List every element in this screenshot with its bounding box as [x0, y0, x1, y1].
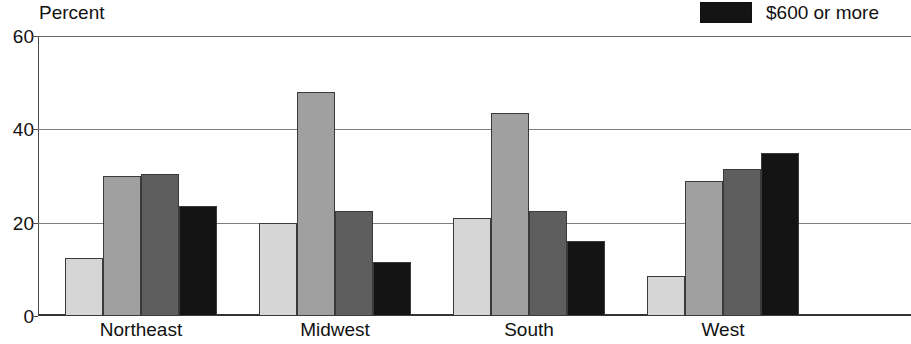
- y-axis-title: Percent: [39, 2, 104, 24]
- bar-midwest-series-4: [373, 262, 411, 316]
- bar-west-series-4: [761, 153, 799, 316]
- x-axis-category-labels: NortheastMidwestSouthWest: [38, 320, 911, 344]
- bar-midwest-series-3: [335, 211, 373, 316]
- y-tick-0: [32, 316, 38, 317]
- y-tick-label-60: 60: [0, 27, 34, 46]
- bar-west-series-3: [723, 169, 761, 316]
- y-tick-label-0: 0: [0, 307, 34, 326]
- bar-south-series-2: [491, 113, 529, 316]
- category-label-south: South: [504, 320, 554, 340]
- bar-northeast-series-3: [141, 174, 179, 316]
- chart-legend: $600 or more: [700, 0, 879, 24]
- bars-layer: [38, 36, 911, 316]
- bar-south-series-4: [567, 241, 605, 316]
- bar-midwest-series-2: [297, 92, 335, 316]
- category-label-northeast: Northeast: [100, 320, 182, 340]
- bar-south-series-1: [453, 218, 491, 316]
- bar-northeast-series-2: [103, 176, 141, 316]
- bar-chart: $600 or more Percent 0204060 NortheastMi…: [0, 0, 911, 344]
- category-label-west: West: [702, 320, 745, 340]
- bar-midwest-series-1: [259, 223, 297, 316]
- bar-south-series-3: [529, 211, 567, 316]
- legend-swatch-600-or-more: [700, 2, 752, 23]
- bar-northeast-series-1: [65, 258, 103, 316]
- bar-northeast-series-4: [179, 206, 217, 316]
- y-tick-label-40: 40: [0, 120, 34, 139]
- y-axis-tick-labels: 0204060: [0, 36, 34, 316]
- category-label-midwest: Midwest: [300, 320, 370, 340]
- bar-west-series-2: [685, 181, 723, 316]
- bar-west-series-1: [647, 276, 685, 316]
- legend-label-600-or-more: $600 or more: [766, 2, 879, 23]
- y-tick-label-20: 20: [0, 213, 34, 232]
